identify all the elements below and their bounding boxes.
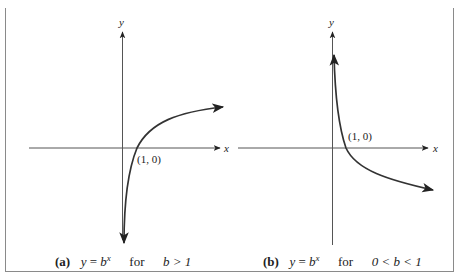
panel-a-caption-eq: =	[90, 254, 97, 269]
panel-a-y-label: y	[118, 16, 124, 28]
panel-a-caption: (a) y = bx for b > 1	[55, 253, 191, 270]
panel-a-caption-condition: b > 1	[163, 254, 191, 269]
panel-b-caption-exp: x	[316, 253, 320, 263]
panel-b-caption-lhs: y	[289, 254, 295, 269]
panel-a-point-label: (1, 0)	[137, 153, 161, 166]
panel-a-log-curve	[124, 107, 223, 243]
panel-a-caption-tag: (a)	[55, 254, 70, 269]
figure-graphs: y x (1, 0) y x (1, 0)	[0, 0, 457, 276]
panel-b-point-label: (1, 0)	[348, 130, 372, 143]
panel-b-x-label: x	[432, 142, 438, 154]
panel-a-caption-for: for	[129, 254, 144, 269]
panel-a-x-label: x	[223, 142, 229, 154]
panel-b-caption-eq: =	[298, 254, 305, 269]
panel-b-caption-condition: 0 < b < 1	[372, 254, 422, 269]
panel-b-graph: y x (1, 0)	[238, 16, 438, 245]
panel-b-caption: (b) y = bx for 0 < b < 1	[263, 253, 422, 270]
panel-a-caption-lhs: y	[81, 254, 87, 269]
panel-a-caption-exp: x	[107, 253, 111, 263]
panel-b-caption-for: for	[338, 254, 353, 269]
panel-b-log-curve	[334, 55, 433, 190]
panel-b-y-label: y	[328, 16, 334, 28]
panel-a-graph: y x (1, 0)	[29, 16, 229, 243]
panel-b-caption-tag: (b)	[263, 254, 279, 269]
